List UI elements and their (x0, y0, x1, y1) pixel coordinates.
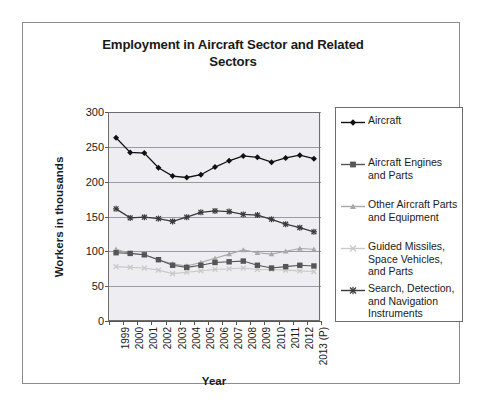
legend-item[interactable]: Search, Detection,and NavigationInstrume… (340, 282, 458, 320)
x-axis-tick-mark (264, 321, 265, 325)
chart-title-line-1: Employment in Aircraft Sector and Relate… (63, 37, 403, 54)
x-axis-tick-mark (137, 321, 138, 325)
y-axis-tick-label: 200 (70, 176, 104, 188)
x-axis-tick-mark (194, 321, 195, 325)
x-axis-tick-mark (151, 321, 152, 325)
series-lines (109, 112, 321, 321)
y-axis-tick-label: 100 (70, 245, 104, 257)
x-axis-tick-mark (123, 321, 124, 325)
x-axis-tick-label: 2007 (233, 327, 244, 349)
legend-item[interactable]: Other Aircraft Partsand Equipment (340, 198, 458, 236)
star-marker-icon (340, 283, 366, 296)
y-axis-tick-label: 0 (70, 315, 104, 327)
x-axis-tick-mark (208, 321, 209, 325)
x-axis-tick-mark (293, 321, 294, 325)
x-axis-tick-mark (109, 321, 110, 325)
x-axis-tick-mark (180, 321, 181, 325)
x-axis-tick-label: 2011 (290, 327, 301, 349)
legend-item-label: Guided Missiles,Space Vehicles,and Parts (366, 240, 445, 278)
legend-item-label: Aircraft (366, 114, 401, 127)
chart-frame: Employment in Aircraft Sector and Relate… (22, 22, 460, 384)
y-axis-title-text: Workers in thousands (53, 156, 65, 277)
x-axis-tick-mark (250, 321, 251, 325)
x-axis-tick-label: 2000 (134, 327, 145, 349)
series-search-detection-and-navigation-instruments (113, 206, 317, 235)
x-axis-tick-label: 2010 (276, 327, 287, 349)
y-axis-tick-label: 300 (70, 106, 104, 118)
legend-item[interactable]: Aircraft Enginesand Parts (340, 156, 458, 194)
legend-item-label: Other Aircraft Partsand Equipment (366, 198, 457, 223)
x-axis-tick-mark (321, 321, 322, 325)
diamond-marker-icon (340, 115, 366, 128)
chart-legend: AircraftAircraft Enginesand PartsOther A… (335, 107, 463, 322)
legend-item[interactable]: Aircraft (340, 114, 458, 152)
legend-item-label: Search, Detection,and NavigationInstrume… (366, 282, 454, 320)
y-axis-title: Workers in thousands (51, 112, 67, 321)
y-axis-tick-label: 50 (70, 280, 104, 292)
triangle-marker-icon (340, 199, 366, 212)
x-axis-tick-mark (279, 321, 280, 325)
x-axis-tick-label: 2003 (177, 327, 188, 349)
x-axis-title: Year (108, 375, 320, 387)
legend-item-label: Aircraft Enginesand Parts (366, 156, 442, 181)
x-axis-tick-label: 2006 (219, 327, 230, 349)
x-axis-tick-mark (236, 321, 237, 325)
x-axis-tick-label: 2001 (148, 327, 159, 349)
x-axis-tick-label: 2002 (162, 327, 173, 349)
plot-area: 050100150200250300 199920002001200220032… (108, 112, 321, 322)
series-aircraft (113, 135, 317, 181)
x-axis-tick-label: 2008 (247, 327, 258, 349)
x-axis-tick-label: 1999 (120, 327, 131, 349)
x-axis-tick-label: 2012 (304, 327, 315, 349)
chart-title: Employment in Aircraft Sector and Relate… (63, 37, 403, 71)
x-axis-tick-label: 2004 (191, 327, 202, 349)
y-axis-tick-label: 150 (70, 211, 104, 223)
cross-marker-icon (340, 241, 366, 254)
chart-title-line-2: Sectors (63, 54, 403, 71)
legend-item[interactable]: Guided Missiles,Space Vehicles,and Parts (340, 240, 458, 278)
x-axis-tick-label: 2009 (261, 327, 272, 349)
x-axis-tick-mark (166, 321, 167, 325)
x-axis-tick-mark (307, 321, 308, 325)
x-axis-tick-label: 2005 (205, 327, 216, 349)
x-axis-tick-mark (222, 321, 223, 325)
x-axis-tick-label: 2013 (P) (318, 327, 329, 365)
y-axis-tick-label: 250 (70, 141, 104, 153)
square-marker-icon (340, 157, 366, 170)
